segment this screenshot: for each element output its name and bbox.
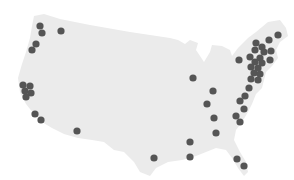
location-marker[interactable]: [251, 46, 258, 53]
location-marker[interactable]: [203, 100, 210, 107]
location-marker[interactable]: [240, 105, 247, 112]
location-marker[interactable]: [31, 110, 38, 117]
location-marker[interactable]: [233, 155, 240, 162]
location-marker[interactable]: [28, 46, 35, 53]
location-marker[interactable]: [73, 127, 80, 134]
location-marker[interactable]: [235, 56, 242, 63]
location-marker[interactable]: [236, 97, 243, 104]
location-marker[interactable]: [232, 112, 239, 119]
location-marker[interactable]: [36, 22, 43, 29]
location-marker[interactable]: [267, 47, 274, 54]
location-marker[interactable]: [265, 36, 272, 43]
location-marker[interactable]: [266, 56, 273, 63]
location-marker[interactable]: [150, 154, 157, 161]
location-marker[interactable]: [186, 138, 193, 145]
location-marker[interactable]: [38, 29, 45, 36]
location-marker[interactable]: [252, 39, 259, 46]
location-marker[interactable]: [22, 93, 29, 100]
location-marker[interactable]: [240, 162, 247, 169]
location-marker[interactable]: [274, 31, 281, 38]
location-marker[interactable]: [245, 84, 252, 91]
us-map: [0, 0, 294, 180]
location-marker[interactable]: [37, 116, 44, 123]
location-marker[interactable]: [247, 75, 254, 82]
location-marker[interactable]: [210, 114, 217, 121]
location-marker[interactable]: [32, 40, 39, 47]
location-marker[interactable]: [189, 74, 196, 81]
location-marker[interactable]: [212, 129, 219, 136]
location-marker[interactable]: [260, 48, 267, 55]
location-marker[interactable]: [186, 153, 193, 160]
location-marker[interactable]: [57, 27, 64, 34]
location-marker[interactable]: [254, 76, 261, 83]
location-marker[interactable]: [236, 118, 243, 125]
location-marker[interactable]: [209, 87, 216, 94]
